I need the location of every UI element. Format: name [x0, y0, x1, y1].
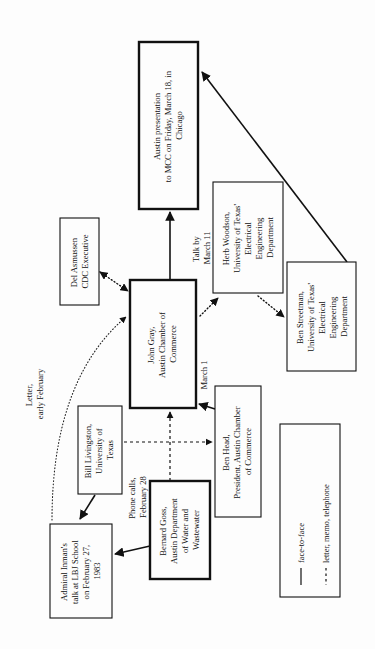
node-bill-livingston: Bill Livingston, University of Texas — [78, 406, 122, 494]
edge-label-phone-calls: Phone calls, February 28 — [127, 475, 148, 519]
edge-goss-to-inman — [115, 546, 150, 554]
node-text-line: University of Texas' — [306, 283, 316, 352]
legend-label-face-to-face: face-to-face — [297, 523, 306, 563]
node-text-line: 1983 — [92, 562, 102, 579]
node-text-line: Department — [339, 296, 349, 337]
edge-asmussen-johngray — [100, 272, 128, 291]
node-text-line: Engineering — [254, 217, 264, 260]
label-line: Letter, — [24, 384, 34, 406]
node-john-gray: John Gray, Austin Chamber of Commerce — [130, 280, 196, 408]
edge-label-march-1: March 1 — [199, 361, 209, 390]
node-text-line: University of — [94, 428, 104, 474]
node-text-line: Herb Woodson, — [221, 212, 231, 266]
node-text-line: Bill Livingston, — [83, 424, 93, 478]
node-text-line: President, Austin Chamber — [232, 406, 242, 499]
node-text-line: Austin presentation — [152, 92, 162, 160]
node-del-asmussen: Del Asmussen CDC Executive — [60, 218, 99, 305]
node-text-line: Austin Chamber of — [157, 312, 167, 378]
legend-label-letter-memo-telephone: letter, memo, telephone — [322, 484, 331, 563]
edge-johngray-to-woodson — [200, 298, 218, 316]
edge-benhead-to-johngray — [199, 404, 215, 409]
edge-woodson-to-streetman — [258, 296, 284, 317]
node-text-line: Ben Streetman, — [295, 291, 305, 344]
node-text-line: Austin Department — [169, 498, 179, 564]
node-text-line: Department — [265, 217, 275, 258]
node-ben-streetman: Ben Streetman, University of Texas' Elec… — [287, 262, 356, 371]
svg-text:Del Asmussen CDC Executi: Del Asmussen CDC Executive — [69, 234, 90, 288]
node-text-line: University of Texas' — [232, 204, 242, 273]
edge-livingston-to-inman — [80, 495, 95, 519]
node-text-line: Wastewater — [191, 510, 201, 550]
node-text-line: on February 27, — [81, 545, 91, 600]
node-admiral-inman: Admiral Inman's talk at LBJ School on Fe… — [50, 524, 112, 618]
node-text-line: of Commerce — [243, 428, 253, 475]
label-line: Phone calls, — [127, 477, 137, 519]
node-text-line: of Water and — [180, 508, 190, 553]
node-bernard-goss: Bernard Goss, Austin Department of Water… — [150, 481, 210, 579]
node-text-line: Electrical — [317, 301, 327, 335]
node-text-line: Ben Head, — [221, 434, 231, 470]
edge-label-talk-by: Talk by March 11 — [191, 232, 212, 265]
label-line: early February — [35, 368, 45, 419]
node-ben-head: Ben Head, President, Austin Chamber of C… — [215, 386, 261, 517]
node-herb-woodson: Herb Woodson, University of Texas' Elect… — [213, 182, 283, 293]
node-text-line: Commerce — [168, 325, 178, 363]
node-text-line: Admiral Inman's — [59, 543, 69, 601]
node-text-line: to MCC on Friday, March 18, in — [163, 70, 173, 182]
node-text-line: Chicago — [174, 111, 184, 140]
node-text-line: CDC Executive — [80, 234, 90, 288]
label-line: March 1 — [199, 361, 209, 390]
label-line: March 11 — [202, 232, 212, 265]
mcc-austin-network-diagram: Austin presentation to MCC on Friday, Ma… — [0, 0, 375, 649]
legend: face-to-face letter, memo, telephone — [280, 424, 340, 597]
label-line: Talk by — [191, 235, 201, 262]
node-text-line: John Gray, — [146, 327, 156, 364]
label-line: February 28 — [138, 476, 148, 518]
node-text-line: Bernard Goss, — [158, 506, 168, 555]
node-text-line: Del Asmussen — [69, 237, 79, 287]
node-text-line: Electrical — [243, 222, 253, 256]
node-text-line: Texas — [105, 439, 115, 460]
node-presentation: Austin presentation to MCC on Friday, Ma… — [139, 42, 198, 209]
node-text-line: Engineering — [328, 296, 338, 339]
node-text-line: talk at LBJ School — [70, 540, 80, 604]
edge-label-letter: Letter, early February — [24, 368, 45, 419]
